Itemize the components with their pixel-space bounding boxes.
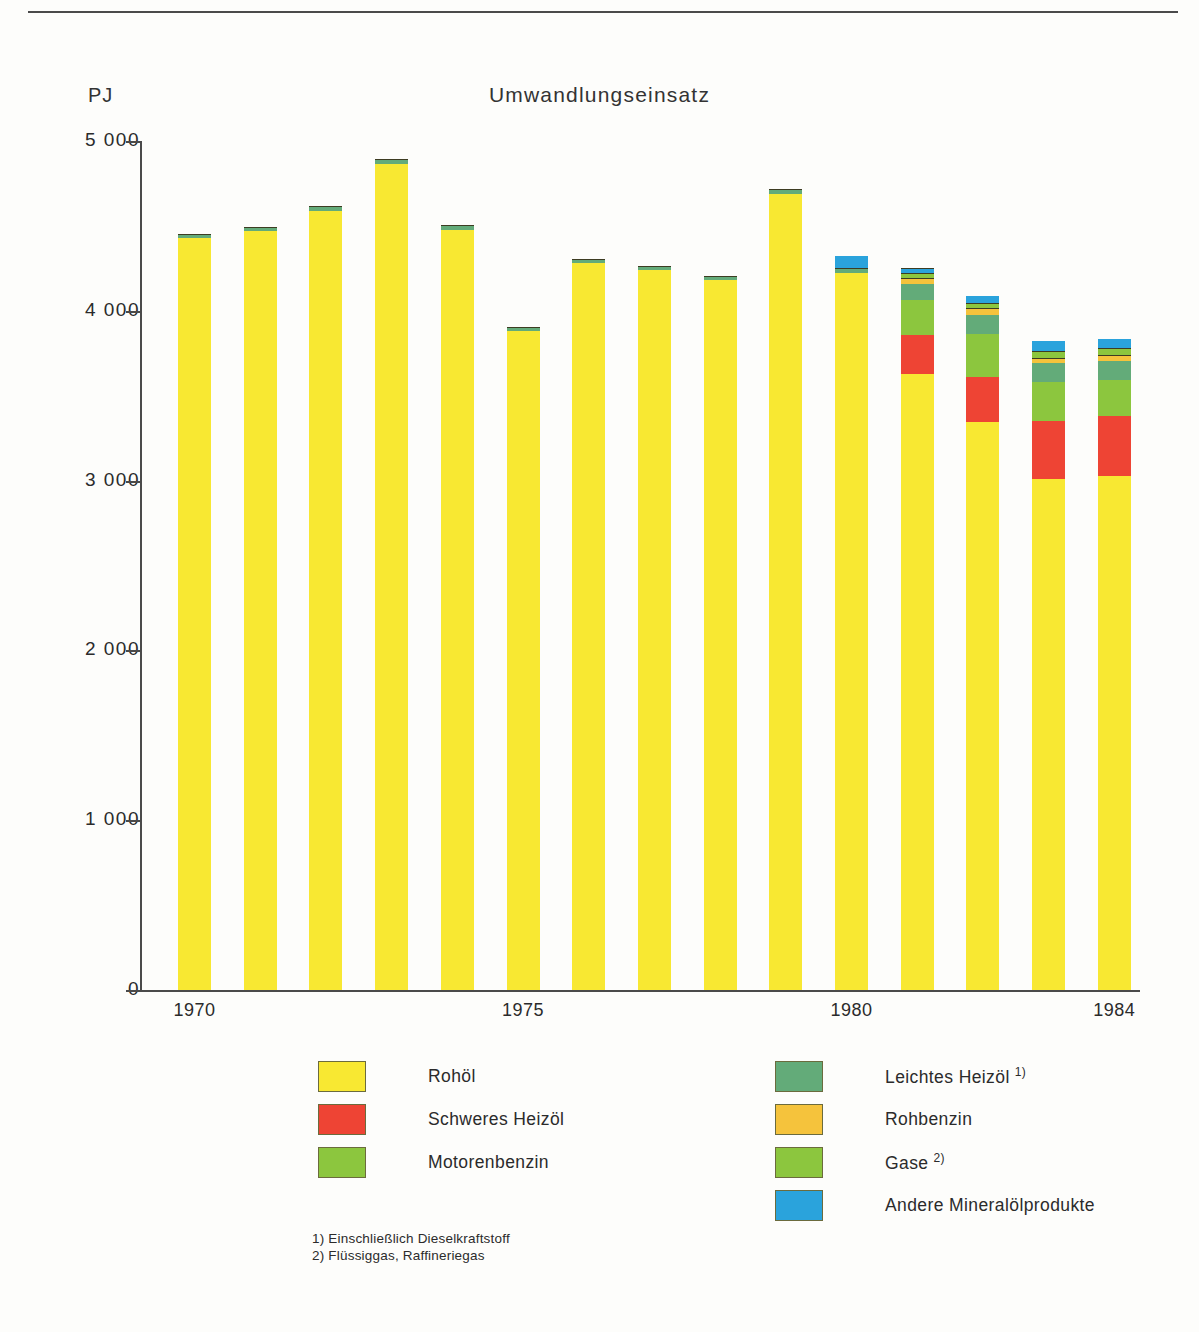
legend-swatch-icon — [775, 1104, 823, 1135]
bar-segment-1979-0 — [769, 194, 802, 990]
bar-series-layer — [0, 0, 1199, 990]
bar-1977 — [638, 0, 671, 990]
legend-item-right-1[interactable]: Rohbenzin — [775, 1098, 1095, 1141]
bar-segment-1973-0 — [375, 164, 408, 990]
footnote-2: 2) Flüssiggas, Raffineriegas — [312, 1247, 510, 1264]
legend-footnote-marker: 1) — [1015, 1065, 1026, 1079]
bar-1976 — [572, 0, 605, 990]
legend-item-left-2[interactable]: Motorenbenzin — [318, 1141, 564, 1184]
footnote-1: 1) Einschließlich Dieselkraftstoff — [312, 1230, 510, 1247]
bar-segment-1982-2 — [966, 334, 999, 377]
bar-segment-1983-6 — [1032, 341, 1065, 351]
bar-1970 — [178, 0, 211, 990]
bar-1972 — [309, 0, 342, 990]
bar-segment-1980-6 — [835, 256, 868, 269]
bar-segment-1983-5 — [1032, 351, 1065, 358]
footnotes: 1) Einschließlich Dieselkraftstoff2) Flü… — [312, 1230, 510, 1264]
legend-footnote-marker: 2) — [933, 1151, 944, 1165]
legend-swatch-icon — [318, 1147, 366, 1178]
x-tick-label-1975: 1975 — [483, 1000, 563, 1021]
bar-segment-1981-3 — [901, 284, 934, 300]
y-tick-mark — [126, 990, 142, 992]
legend-label: Schweres Heizöl — [428, 1109, 564, 1130]
bar-segment-1983-0 — [1032, 479, 1065, 990]
bar-1981 — [901, 0, 934, 990]
bar-1984 — [1098, 0, 1131, 990]
bar-segment-1984-0 — [1098, 476, 1131, 990]
bar-segment-1982-3 — [966, 315, 999, 334]
bar-1978 — [704, 0, 737, 990]
x-tick-label-1980: 1980 — [812, 1000, 892, 1021]
legend-label: Rohöl — [428, 1066, 476, 1087]
bar-segment-1974-0 — [441, 230, 474, 990]
legend-label: Leichtes Heizöl1) — [885, 1065, 1026, 1088]
legend-label: Motorenbenzin — [428, 1152, 549, 1173]
legend-item-right-3[interactable]: Andere Mineralölprodukte — [775, 1184, 1095, 1227]
bar-segment-1984-5 — [1098, 348, 1131, 355]
bar-1983 — [1032, 0, 1065, 990]
legend-swatch-icon — [318, 1061, 366, 1092]
bar-segment-1983-1 — [1032, 421, 1065, 479]
bar-1982 — [966, 0, 999, 990]
x-axis-line — [140, 990, 1140, 992]
x-tick-label-1970: 1970 — [155, 1000, 235, 1021]
bar-segment-1983-3 — [1032, 363, 1065, 382]
bar-1971 — [244, 0, 277, 990]
bar-segment-1983-2 — [1032, 382, 1065, 421]
bar-segment-1981-0 — [901, 374, 934, 990]
bar-segment-1975-0 — [507, 331, 540, 990]
legend-swatch-icon — [775, 1147, 823, 1178]
bar-segment-1977-0 — [638, 270, 671, 990]
bar-segment-1980-0 — [835, 273, 868, 990]
bar-segment-1981-2 — [901, 300, 934, 336]
legend-item-left-1[interactable]: Schweres Heizöl — [318, 1098, 564, 1141]
legend-item-right-2[interactable]: Gase2) — [775, 1141, 1095, 1184]
bar-segment-1970-0 — [178, 238, 211, 990]
bar-segment-1972-0 — [309, 211, 342, 990]
bar-1980 — [835, 0, 868, 990]
bar-segment-1982-0 — [966, 422, 999, 990]
legend-label: Andere Mineralölprodukte — [885, 1195, 1095, 1216]
legend-item-right-0[interactable]: Leichtes Heizöl1) — [775, 1055, 1095, 1098]
legend-item-left-0[interactable]: Rohöl — [318, 1055, 564, 1098]
legend-column-right: Leichtes Heizöl1)RohbenzinGase2)Andere M… — [775, 1055, 1095, 1227]
bar-segment-1978-0 — [704, 280, 737, 990]
bar-1974 — [441, 0, 474, 990]
legend-label: Gase2) — [885, 1151, 945, 1174]
bar-segment-1982-1 — [966, 377, 999, 422]
bar-segment-1984-2 — [1098, 380, 1131, 417]
legend-swatch-icon — [318, 1104, 366, 1135]
chart-root: PJ Umwandlungseinsatz 01 0002 0003 0004 … — [0, 0, 1199, 1332]
bar-segment-1984-6 — [1098, 339, 1131, 348]
bar-segment-1981-1 — [901, 335, 934, 373]
bar-1979 — [769, 0, 802, 990]
x-tick-label-1984: 1984 — [1074, 1000, 1154, 1021]
bar-segment-1982-4 — [966, 308, 999, 315]
legend-column-left: RohölSchweres HeizölMotorenbenzin — [318, 1055, 564, 1184]
bar-1973 — [375, 0, 408, 990]
legend: RohölSchweres HeizölMotorenbenzin Leicht… — [0, 1055, 1199, 1235]
legend-label: Rohbenzin — [885, 1109, 972, 1130]
bar-segment-1971-0 — [244, 231, 277, 990]
bar-segment-1984-1 — [1098, 416, 1131, 476]
bar-segment-1984-3 — [1098, 361, 1131, 380]
bar-segment-1976-0 — [572, 263, 605, 990]
bar-1975 — [507, 0, 540, 990]
legend-swatch-icon — [775, 1190, 823, 1221]
bar-segment-1982-6 — [966, 296, 999, 304]
legend-swatch-icon — [775, 1061, 823, 1092]
